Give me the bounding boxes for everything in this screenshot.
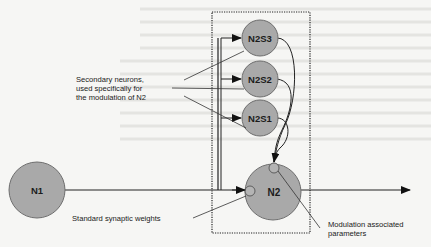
annotation-line: Secondary neurons,: [76, 75, 146, 84]
secondary-neurons-annotation: Secondary neurons, used specifically for…: [76, 75, 146, 102]
leader-secondary-1: [184, 51, 244, 80]
leader-secondary-3: [184, 96, 246, 128]
annotation-line: parameters: [328, 229, 404, 238]
node-n2s1-label: N2S1: [248, 113, 272, 124]
node-n2s3[interactable]: N2S3: [242, 20, 278, 56]
synapse-modulation-marker: [269, 163, 279, 173]
node-n2s2[interactable]: N2S2: [242, 61, 278, 97]
node-n2s3-label: N2S3: [248, 33, 272, 44]
node-n2s2-label: N2S2: [248, 74, 272, 85]
neural-diagram: N2S3 N2S2 N2S1 N1 N2: [0, 0, 431, 247]
annotation-line: the modulation of N2: [76, 93, 146, 102]
annotation-line: Modulation associated: [328, 220, 404, 229]
node-n2s1[interactable]: N2S1: [242, 100, 278, 136]
annotation-line: used specifically for: [76, 84, 146, 93]
synapse-standard-marker: [245, 186, 255, 196]
node-n2-label: N2: [268, 187, 281, 198]
node-n1[interactable]: N1: [9, 162, 65, 218]
standard-weights-annotation: Standard synaptic weights: [72, 214, 161, 223]
leader-standard-weights: [193, 196, 246, 218]
node-n1-label: N1: [31, 185, 44, 196]
modulation-params-annotation: Modulation associated parameters: [328, 220, 404, 238]
leader-secondary-2: [172, 88, 244, 89]
